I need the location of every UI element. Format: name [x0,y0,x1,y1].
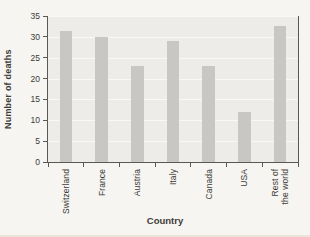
x-category-label-rest-of: Rest of the world [270,169,290,204]
bar-canada [202,66,215,162]
y-tick-label: 15 [14,94,40,104]
y-tick-label: 35 [14,11,40,21]
y-tick-label: 0 [14,157,40,167]
bar-austria [131,66,144,162]
x-category-label-canada: Canada [204,169,214,199]
x-category-label-switzerland: Switzerland [61,169,71,214]
x-axis-title: Country [38,215,292,226]
x-tick-mark [48,163,49,167]
x-category-label-france: France [97,169,107,196]
x-tick-mark [262,163,263,167]
y-tick-mark [43,36,47,37]
x-tick-mark [226,163,227,167]
bar-france [95,37,108,162]
y-tick-label: 30 [14,32,40,42]
bar-switzerland [60,31,73,162]
y-tick-label: 5 [14,136,40,146]
gridline-35 [48,16,298,17]
bar-italy [167,41,180,162]
x-tick-mark [190,163,191,167]
y-tick-mark [43,162,47,163]
bar-usa [238,112,251,162]
y-tick-mark [43,120,47,121]
y-axis-line [47,16,48,163]
y-axis-title: Number of deaths [3,16,13,162]
y-tick-label: 25 [14,53,40,63]
x-category-label-italy: Italy [168,169,178,185]
plot-area [48,16,298,162]
bar-rest-of [274,26,287,162]
x-tick-mark [298,163,299,167]
y-tick-mark [43,16,47,17]
page-edge-band [0,235,310,237]
y-tick-mark [43,57,47,58]
y-tick-mark [43,78,47,79]
y-tick-label: 20 [14,74,40,84]
right-axis-line [298,16,299,163]
x-category-label-usa: USA [239,169,249,187]
x-tick-mark [155,163,156,167]
bar-chart-figure: Number of deaths Country 05101520253035S… [0,0,310,237]
x-tick-mark [119,163,120,167]
gridline-30 [48,37,298,38]
x-category-label-austria: Austria [132,169,142,196]
y-tick-label: 10 [14,115,40,125]
y-tick-mark [43,141,47,142]
y-tick-mark [43,99,47,100]
x-tick-mark [83,163,84,167]
